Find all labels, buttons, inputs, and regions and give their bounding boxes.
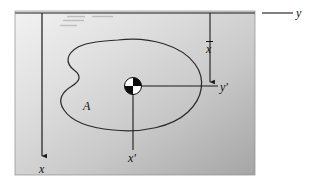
x-axis-label: x — [39, 163, 44, 175]
centroid-marker — [125, 78, 142, 95]
centroid-diagram: y x x' y' A x — [0, 0, 314, 189]
area-label: A — [83, 100, 90, 112]
y-prime-axis-label: y' — [220, 81, 228, 93]
y-axis-label: y — [296, 7, 301, 19]
x-bar-glyph: x — [206, 43, 213, 55]
diagram-canvas — [0, 0, 314, 189]
x-prime-axis-label: x' — [128, 152, 136, 164]
x-bar-dimension-label: x — [206, 41, 213, 55]
